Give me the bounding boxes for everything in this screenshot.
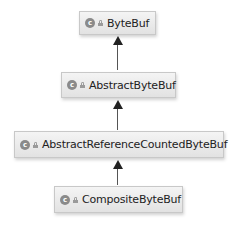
lock-icon <box>80 82 85 88</box>
arrowhead-icon <box>113 36 123 45</box>
inheritance-edge <box>117 168 118 185</box>
class-name: ByteBuf <box>107 17 149 30</box>
class-name: CompositeByteBuf <box>82 193 181 206</box>
inheritance-edge <box>117 44 118 70</box>
class-node-abstractbytebuf[interactable]: c AbstractByteBuf <box>61 72 176 98</box>
class-node-abstractreferencecountedbytebuf[interactable]: c AbstractReferenceCountedByteBuf <box>14 131 224 158</box>
inheritance-edge <box>117 108 118 130</box>
arrowhead-icon <box>113 160 123 169</box>
class-name: AbstractByteBuf <box>89 79 176 92</box>
lock-icon <box>33 142 38 148</box>
class-icon: c <box>20 140 30 150</box>
class-node-bytebuf[interactable]: c ByteBuf <box>79 11 156 35</box>
class-icon: c <box>67 80 77 90</box>
class-hierarchy-diagram: c ByteBuf c AbstractByteBuf c AbstractRe… <box>0 0 238 227</box>
class-icon: c <box>60 195 70 205</box>
lock-icon <box>73 197 78 203</box>
lock-icon <box>98 20 103 26</box>
class-node-compositebytebuf[interactable]: c CompositeByteBuf <box>54 186 183 213</box>
arrowhead-icon <box>113 100 123 109</box>
class-name: AbstractReferenceCountedByteBuf <box>42 138 227 151</box>
class-icon: c <box>85 18 95 28</box>
